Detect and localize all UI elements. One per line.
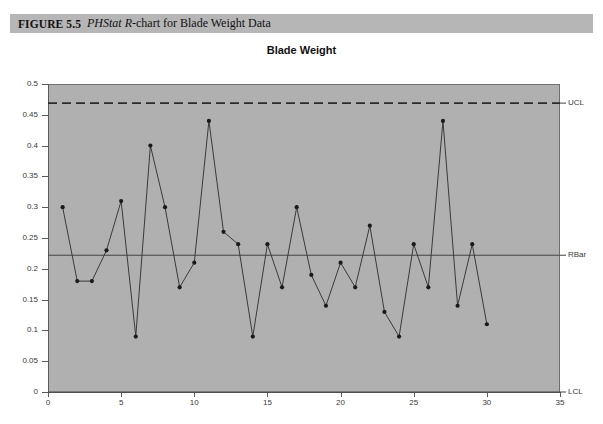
data-point bbox=[104, 248, 108, 252]
data-point bbox=[134, 334, 138, 338]
range-series-markers bbox=[61, 119, 489, 339]
data-point bbox=[309, 273, 313, 277]
data-point bbox=[90, 279, 94, 283]
data-point bbox=[456, 304, 460, 308]
data-point bbox=[221, 230, 225, 234]
data-point bbox=[192, 261, 196, 265]
data-point bbox=[163, 205, 167, 209]
data-point bbox=[295, 205, 299, 209]
data-point bbox=[397, 334, 401, 338]
range-series-line bbox=[63, 121, 487, 337]
data-point bbox=[119, 199, 123, 203]
data-point bbox=[470, 242, 474, 246]
series-plot bbox=[0, 0, 603, 424]
data-point bbox=[251, 334, 255, 338]
data-point bbox=[382, 310, 386, 314]
data-point bbox=[324, 304, 328, 308]
data-point bbox=[236, 242, 240, 246]
data-point bbox=[207, 119, 211, 123]
data-point bbox=[265, 242, 269, 246]
data-point bbox=[61, 205, 65, 209]
data-point bbox=[178, 285, 182, 289]
data-point bbox=[426, 285, 430, 289]
data-point bbox=[338, 261, 342, 265]
data-point bbox=[441, 119, 445, 123]
data-point bbox=[148, 144, 152, 148]
data-point bbox=[368, 224, 372, 228]
data-point bbox=[280, 285, 284, 289]
data-point bbox=[353, 285, 357, 289]
data-point bbox=[485, 322, 489, 326]
r-chart: 00.050.10.150.20.250.30.350.40.450.5 051… bbox=[0, 0, 603, 424]
data-point bbox=[75, 279, 79, 283]
data-point bbox=[412, 242, 416, 246]
